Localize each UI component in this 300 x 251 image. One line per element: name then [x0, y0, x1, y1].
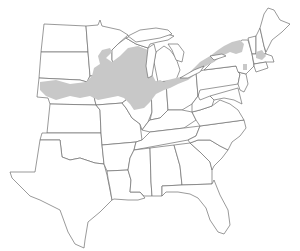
state-connecticut — [254, 62, 268, 72]
state-borders — [10, 8, 290, 248]
state-north-dakota — [41, 24, 88, 52]
state-maryland — [210, 88, 242, 104]
state-new-jersey — [238, 72, 248, 92]
range-region-hudson — [243, 64, 247, 70]
state-mississippi — [128, 148, 152, 196]
state-south-dakota — [39, 52, 90, 82]
map-canvas — [0, 0, 300, 251]
state-kansas — [47, 104, 101, 133]
state-florida — [162, 180, 230, 234]
state-maine — [260, 8, 290, 52]
